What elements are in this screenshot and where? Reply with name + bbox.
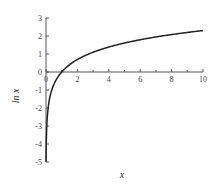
y-tick-label: 2 [38,32,42,41]
y-tick-label: -2 [35,104,42,113]
ln-x-chart: -5-4-3-2-101230246810 x ln x [0,0,220,186]
x-tick-label: 10 [199,75,207,84]
ticks: -5-4-3-2-101230246810 [35,14,207,167]
y-tick-label: -4 [35,140,42,149]
y-tick-label: 0 [38,68,42,77]
y-tick-label: 3 [38,14,42,23]
ln-x-curve [46,31,203,162]
x-tick-label: 6 [138,75,142,84]
x-tick-label: 2 [75,75,79,84]
x-tick-label: 8 [170,75,174,84]
x-tick-label: 4 [107,75,111,84]
axes [46,18,203,162]
x-axis-label: x [119,169,125,180]
y-tick-label: -1 [35,86,42,95]
y-axis-label: ln x [10,88,21,103]
y-tick-label: 1 [38,50,42,59]
x-tick-label: 0 [44,75,48,84]
y-tick-label: -3 [35,122,42,131]
y-tick-label: -5 [35,158,42,167]
